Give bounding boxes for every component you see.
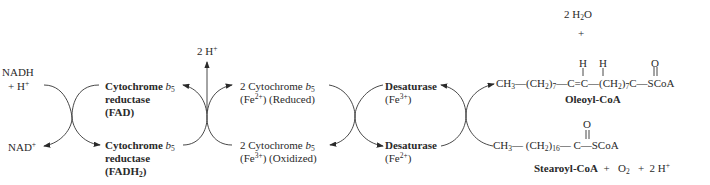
carbonyl-c: — C — [560, 139, 581, 151]
ch2-text: (CH — [599, 77, 618, 89]
cyt-b5-oxidized-line1: 2 Cytochrome — [240, 139, 305, 151]
protons-released-label: 2 H+ — [197, 45, 217, 58]
fe-close: ) — [408, 93, 412, 105]
carbonyl-c: C — [629, 77, 636, 89]
oleoyl-carbonyl-o: O — [651, 57, 659, 70]
fe-text: (Fe — [240, 93, 255, 105]
b-subscript: 5 — [171, 144, 175, 153]
stearoyl-structure: CH3— (CH2)16— C—SCoA — [493, 139, 619, 152]
fe-charge: 2+ — [400, 151, 408, 160]
protons-charge: + — [213, 44, 217, 53]
alkene-c2: C— — [581, 77, 599, 89]
scoa-text: —SCoA — [581, 139, 619, 151]
reduced-text: ) (Reduced) — [263, 93, 315, 105]
reductase-fadh2-line1: Cytochrome — [105, 139, 166, 151]
arrow-b5-ox-to-red — [207, 85, 232, 145]
ch3-text: CH — [493, 139, 508, 151]
stearoyl-equation: Stearoyl-CoA + O2 + 2 H+ — [534, 162, 670, 175]
cyt-b5-oxidized-label: 2 Cytochrome b5 (Fe3+) (Oxidized) — [240, 139, 317, 165]
fe-charge: 3+ — [255, 151, 263, 160]
fadh-text: (FADH — [105, 165, 139, 177]
reductase-fad-line1: Cytochrome — [105, 80, 166, 92]
ch3-text: CH — [496, 77, 511, 89]
desaturase-fe3-label: Desaturase (Fe3+) — [385, 80, 437, 106]
cyt-b5-reduced-line1: 2 Cytochrome — [240, 80, 305, 92]
nad-charge: + — [32, 140, 36, 149]
fe-text: (Fe — [240, 152, 255, 164]
b-subscript: 5 — [171, 85, 175, 94]
oleoyl-h1: H — [579, 57, 587, 70]
oleoyl-h2: H — [599, 57, 607, 70]
nadh-label: NADH — [2, 66, 34, 79]
ch2-count: 16 — [552, 144, 560, 153]
oleoyl-coa-name: Oleoyl-CoA — [565, 93, 621, 106]
proton-label: + H+ — [8, 80, 29, 93]
desaturase-name: Desaturase — [385, 139, 437, 151]
reductase-fadh2-line2: reductase — [105, 152, 150, 164]
desaturase-fe2-label: Desaturase (Fe2+) — [385, 139, 437, 165]
fe-charge: 3+ — [400, 92, 408, 101]
scoa-text: —SCoA — [637, 77, 675, 89]
ch2-text: (CH — [526, 77, 545, 89]
plus-sign: + — [578, 27, 584, 40]
plus-h-text: + H — [8, 80, 25, 92]
desaturase-name: Desaturase — [385, 80, 437, 92]
reductase-fad-label: Cytochrome b5 reductase (FAD) — [105, 80, 175, 119]
ch2-text: (CH — [526, 139, 545, 151]
fe-charge: 2+ — [255, 92, 263, 101]
reductase-fad-line3: (FAD) — [105, 106, 134, 118]
arrow-fadh2-to-fad — [183, 85, 207, 145]
arrow-nadh-to-nad — [44, 85, 72, 146]
nad-text: NAD — [8, 141, 32, 153]
oxidized-text: ) (Oxidized) — [263, 152, 317, 164]
plus-sign: + — [603, 162, 609, 174]
oxygen-subscript: 2 — [626, 167, 630, 176]
fe-close: ) — [408, 152, 412, 164]
arrow-desat-fe3-to-fe2 — [355, 85, 383, 146]
stearoyl-carbonyl-o: O — [583, 118, 591, 131]
oleoyl-structure: CH3—(CH2)7—C=C—(CH2)7C—SCoA — [496, 77, 674, 90]
bond-dash: — — [515, 77, 526, 89]
stearoyl-coa-name: Stearoyl-CoA — [534, 162, 598, 174]
arrow-b5-red-to-ox — [329, 85, 355, 145]
fe-text: (Fe — [385, 93, 400, 105]
fe-text: (Fe — [385, 152, 400, 164]
water-h: 2 H — [564, 8, 580, 20]
arrow-stearoyl-to-oleoyl — [466, 84, 494, 146]
proton-text: 2 H — [650, 162, 666, 174]
nad-label: NAD+ — [8, 141, 36, 154]
reductase-fad-line2: reductase — [105, 93, 150, 105]
bond-dash: — — [512, 139, 523, 151]
reductase-fadh2-label: Cytochrome b5 reductase (FADH2) — [105, 139, 175, 178]
water-o: O — [584, 8, 592, 20]
fadh-close: ) — [143, 165, 147, 177]
cyt-b5-reduced-label: 2 Cytochrome b5 (Fe2+) (Reduced) — [240, 80, 315, 106]
water-label: 2 H2O — [564, 8, 592, 21]
plus-sign: + — [638, 162, 644, 174]
proton-charge: + — [666, 161, 670, 170]
oxygen-text: O — [618, 162, 626, 174]
protons-text: 2 H — [197, 45, 213, 57]
alkene-c1: —C — [556, 77, 574, 89]
arrow-desat-fe2-to-fe3 — [441, 85, 466, 146]
h-charge: + — [25, 79, 29, 88]
arrow-fad-to-fadh2 — [72, 85, 100, 145]
